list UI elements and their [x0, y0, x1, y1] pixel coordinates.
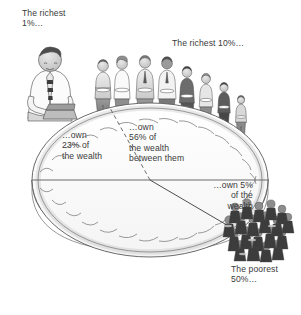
infographic-scene: The richest 1%… The richest 10%… …own 23…	[0, 0, 301, 315]
label-slice-23-percent: …own 23% of the wealth	[62, 130, 102, 161]
label-richest-10-percent: The richest 10%…	[172, 38, 244, 48]
label-slice-5-percent: …own 5% of the wealth	[193, 180, 253, 211]
label-slice-56-percent: …own 56% of the wealth between them	[129, 122, 184, 164]
label-richest-1-percent: The richest 1%…	[22, 8, 66, 29]
rich-man-figure	[27, 47, 77, 121]
label-poorest-50-percent: The poorest 50%…	[231, 264, 278, 285]
